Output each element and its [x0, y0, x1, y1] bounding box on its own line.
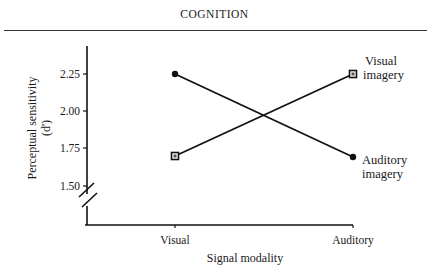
- legend-auditory-imagery-line2: imagery: [362, 167, 404, 181]
- x-tick-label-auditory: Auditory: [332, 234, 374, 247]
- y-tick-label: 2.25: [60, 68, 80, 80]
- data-point-marker: [172, 71, 178, 77]
- x-tick-label-visual: Visual: [160, 234, 189, 246]
- data-point-marker: [350, 154, 356, 160]
- axis-break-mark: [82, 193, 97, 207]
- legend-visual-imagery-line1: Visual: [365, 54, 397, 68]
- y-axis-title: Perceptual sensitivity (d'): [25, 77, 53, 180]
- legend-auditory-imagery-line1: Auditory: [362, 153, 408, 167]
- y-tick-label: 1.75: [60, 142, 80, 154]
- x-axis-title: Signal modality: [207, 251, 283, 265]
- svg-text:(d'): (d'): [39, 120, 53, 136]
- svg-text:Perceptual sensitivity: Perceptual sensitivity: [25, 77, 39, 180]
- legend-visual-imagery-line2: imagery: [363, 68, 405, 82]
- y-ticks: 2.25 2.00 1.75 1.50: [60, 68, 87, 192]
- line-chart: 2.25 2.00 1.75 1.50 Perceptual sensitivi…: [0, 0, 429, 269]
- y-tick-label: 1.50: [60, 180, 80, 192]
- y-tick-label: 2.00: [60, 105, 80, 117]
